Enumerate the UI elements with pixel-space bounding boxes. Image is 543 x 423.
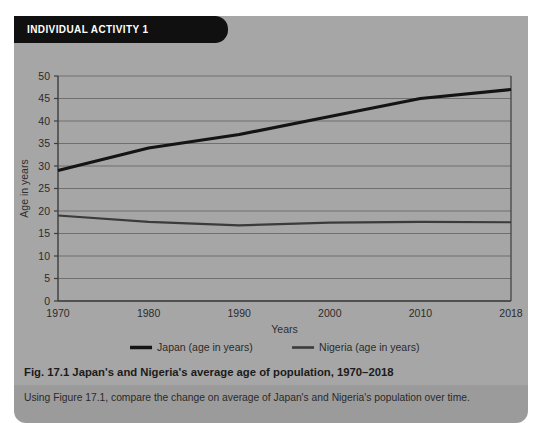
legend-label: Nigeria (age in years) (319, 341, 419, 353)
chart-gridlines (58, 76, 511, 301)
y-tick-label: 40 (38, 115, 50, 127)
y-tick-label: 25 (38, 182, 50, 194)
y-tick-label: 20 (38, 205, 50, 217)
y-tick-label: 0 (44, 295, 50, 307)
series-line (58, 90, 511, 171)
activity-title: INDIVIDUAL ACTIVITY 1 (14, 24, 149, 35)
x-tick-label: 1990 (228, 307, 252, 319)
y-tick-label: 15 (38, 227, 50, 239)
y-tick-label: 30 (38, 160, 50, 172)
activity-header-tab: INDIVIDUAL ACTIVITY 1 (14, 16, 228, 43)
x-tick-label: 1980 (137, 307, 161, 319)
line-chart: 05101520253035404550 1970198019902000201… (14, 43, 528, 358)
x-axis-tick-labels: 197019801990200020102018 (46, 307, 523, 319)
y-axis-tick-labels: 05101520253035404550 (38, 70, 50, 307)
chart-container: 05101520253035404550 1970198019902000201… (14, 43, 528, 358)
y-tick-label: 35 (38, 137, 50, 149)
x-tick-label: 2000 (318, 307, 342, 319)
x-tick-label: 2018 (499, 307, 523, 319)
y-axis-label: Age in years (18, 159, 30, 217)
task-instruction-strip: Using Figure 17.1, compare the change on… (14, 385, 528, 423)
x-axis-label: Years (271, 323, 297, 335)
figure-caption: Fig. 17.1 Japan's and Nigeria's average … (14, 359, 528, 385)
x-tick-label: 1970 (46, 307, 70, 319)
series-line (58, 216, 511, 226)
y-tick-label: 5 (44, 272, 50, 284)
x-tick-label: 2010 (409, 307, 433, 319)
y-tick-label: 50 (38, 70, 50, 82)
y-tick-label: 45 (38, 92, 50, 104)
task-instruction-text: Using Figure 17.1, compare the change on… (14, 385, 470, 403)
chart-series-lines (58, 90, 511, 226)
y-tick-label: 10 (38, 250, 50, 262)
legend-label: Japan (age in years) (157, 341, 253, 353)
individual-activity-panel: INDIVIDUAL ACTIVITY 1 051015202530354045… (14, 16, 528, 406)
chart-legend: Japan (age in years)Nigeria (age in year… (130, 341, 419, 353)
figure-caption-text: Fig. 17.1 Japan's and Nigeria's average … (14, 366, 394, 378)
